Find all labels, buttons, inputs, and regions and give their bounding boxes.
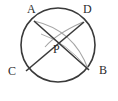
chord-line-icon: [34, 21, 89, 70]
vertex-label-d: D: [83, 3, 92, 15]
vertex-label-a: A: [27, 3, 36, 15]
vertex-label-c: C: [8, 65, 16, 77]
geometry-figure: A D C B P: [0, 0, 118, 101]
vertex-label-b: B: [99, 64, 107, 76]
vertex-label-p: P: [53, 43, 60, 55]
